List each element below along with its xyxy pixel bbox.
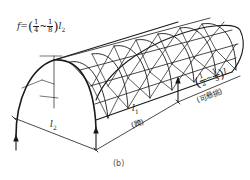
ridge-line bbox=[54, 22, 178, 60]
rise-formula-label: f=(14~18)l2 bbox=[17, 19, 65, 34]
width-label: l2 bbox=[50, 120, 57, 131]
span-label: l1 bbox=[132, 104, 139, 115]
figure-caption: (b) bbox=[113, 160, 124, 168]
